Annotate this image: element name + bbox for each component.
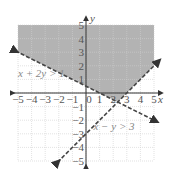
y-tick-label: 1 [79,73,85,85]
inequality-graph: −5−4−3−2−101234554321−1−2−3−4−5xyx + 2y … [0,0,170,175]
y-axis-label: y [89,12,95,24]
inequality-label-2: x − y > 3 [92,120,135,132]
x-tick-label: −3 [39,93,51,105]
x-tick-label: 0 [86,93,92,105]
y-tick-label: 5 [79,19,85,31]
inequality-label-1: x + 2y > 1 [17,67,65,79]
y-tick-label: 2 [79,60,85,72]
y-tick-label: 3 [79,46,85,58]
y-tick-label: −3 [72,128,84,140]
y-tick-label: −1 [72,101,84,113]
y-tick-label: −5 [72,155,84,167]
x-tick-labels: −5−4−3−2−1012345 [12,93,157,105]
y-tick-label: −2 [72,114,84,126]
x-axis-label: x [157,93,163,105]
x-tick-label: 1 [97,93,103,105]
x-tick-label: 5 [151,93,157,105]
plot-area: −5−4−3−2−101234554321−1−2−3−4−5xyx + 2y … [12,12,163,167]
x-tick-label: −4 [26,93,38,105]
x-tick-label: 3 [124,93,130,105]
x-tick-label: 2 [110,93,116,105]
x-tick-label: −5 [12,93,24,105]
x-tick-label: −2 [53,93,65,105]
y-tick-label: 4 [79,33,85,45]
y-tick-label: −4 [72,141,84,153]
x-tick-label: 4 [138,93,144,105]
